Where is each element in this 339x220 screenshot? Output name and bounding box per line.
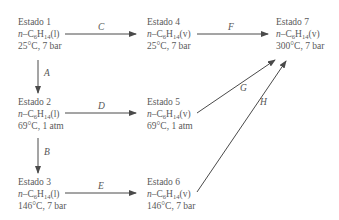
path-label-a: A [44,68,50,78]
state-title: Estado 6 [147,176,195,188]
path-label-b: B [44,147,50,157]
arrow-h [197,61,286,192]
state-6: Estado 6 n–C6H14(v) 146°C, 7 bar [147,176,195,212]
state-7: Estado 7 n–C6H14(v) 300°C, 7 bar [276,16,324,52]
state-conditions: 69°C, 1 atm [147,120,193,132]
path-label-d: D [98,101,105,111]
state-conditions: 300°C, 7 bar [276,40,324,52]
state-conditions: 146°C, 7 bar [18,200,66,212]
path-label-h: H [260,97,267,107]
state-1: Estado 1 n–C6H14(l) 25°C, 7 bar [18,16,62,52]
state-3: Estado 3 n–C6H14(l) 146°C, 7 bar [18,176,66,212]
state-conditions: 25°C, 7 bar [147,40,191,52]
state-title: Estado 2 [18,96,64,108]
path-label-g: G [240,83,247,93]
state-title: Estado 1 [18,16,62,28]
state-conditions: 69°C, 1 atm [18,120,64,132]
state-title: Estado 4 [147,16,191,28]
state-compound: n–C6H14(v) [147,108,193,120]
state-compound: n–C6H14(l) [18,28,62,40]
state-title: Estado 3 [18,176,66,188]
state-conditions: 25°C, 7 bar [18,40,62,52]
path-label-c: C [98,22,104,32]
state-conditions: 146°C, 7 bar [147,200,195,212]
state-compound: n–C6H14(l) [18,108,64,120]
state-4: Estado 4 n–C6H14(v) 25°C, 7 bar [147,16,191,52]
state-compound: n–C6H14(l) [18,188,66,200]
state-2: Estado 2 n–C6H14(l) 69°C, 1 atm [18,96,64,132]
state-5: Estado 5 n–C6H14(v) 69°C, 1 atm [147,96,193,132]
state-compound: n–C6H14(v) [276,28,324,40]
path-label-e: E [98,181,104,191]
state-compound: n–C6H14(v) [147,28,191,40]
state-title: Estado 5 [147,96,193,108]
state-compound: n–C6H14(v) [147,188,195,200]
state-title: Estado 7 [276,16,324,28]
path-label-f: F [228,22,234,32]
